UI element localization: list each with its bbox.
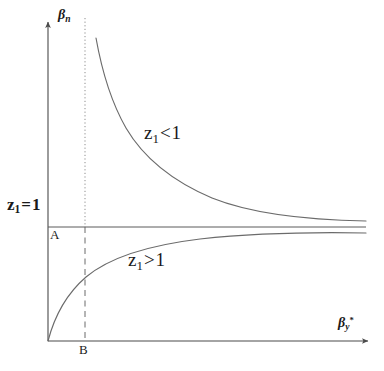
curve-lower-z1-greater-than-1 [48, 233, 366, 341]
y-axis-label: βn [58, 8, 70, 24]
y-axis-label-subscript: n [65, 14, 70, 24]
asymptote-level-relation: = [20, 195, 32, 214]
curve-upper-z1-less-than-1 [96, 38, 366, 221]
x-axis-label: βy* [338, 316, 354, 332]
figure-root: βn βy* z1=1 A B z1<1 z1>1 [0, 0, 384, 371]
asymptote-level-value: 1 [32, 195, 41, 214]
curve-lower-value: 1 [156, 249, 166, 270]
curve-lower-relation: > [143, 249, 156, 270]
x-axis-label-superscript: * [349, 315, 353, 325]
curve-label-lower: z1>1 [128, 250, 165, 273]
point-label-a: A [50, 228, 59, 241]
asymptote-level-label: z1=1 [7, 196, 41, 216]
asymptote-level-base: z [7, 195, 15, 214]
point-label-b: B [79, 343, 88, 356]
curve-upper-subscript: 1 [152, 131, 158, 146]
curve-upper-relation: < [159, 122, 172, 143]
plot-canvas [0, 0, 384, 371]
curve-upper-value: 1 [172, 122, 182, 143]
curve-label-upper: z1<1 [144, 123, 181, 146]
curve-lower-subscript: 1 [136, 258, 142, 273]
